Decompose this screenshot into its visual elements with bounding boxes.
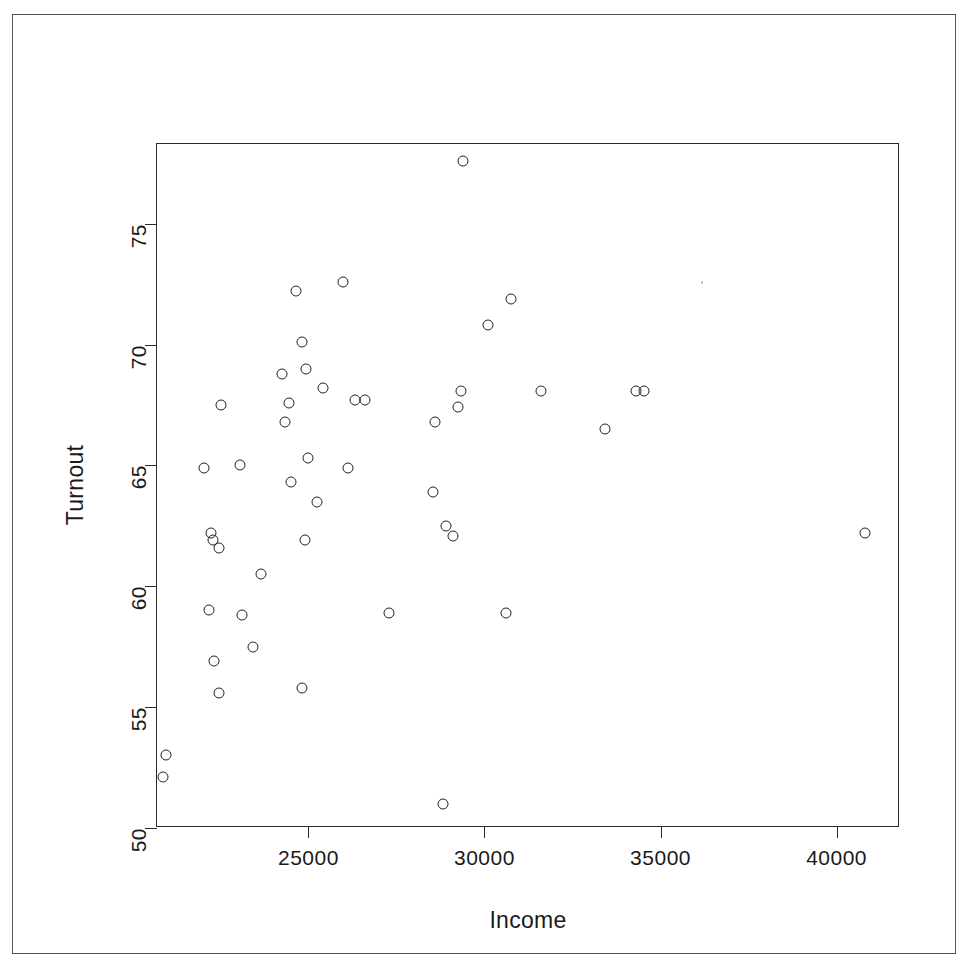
scatter-point — [318, 383, 329, 394]
x-axis-tick — [484, 826, 485, 838]
x-axis-tick-label: 25000 — [278, 846, 339, 870]
scatter-point — [343, 462, 354, 473]
scatter-point — [638, 385, 649, 396]
scatter-point — [157, 772, 168, 783]
scatter-point — [427, 487, 438, 498]
scatter-point — [279, 416, 290, 427]
scatter-plot-area: 505560657075 25000300003500040000 — [156, 143, 899, 827]
scatter-point — [437, 798, 448, 809]
scatter-point — [213, 542, 224, 553]
y-axis-tick-label: 75 — [127, 224, 151, 248]
scatter-point — [482, 320, 493, 331]
scatter-point — [160, 750, 171, 761]
y-axis-tick-label: 50 — [127, 828, 151, 852]
x-axis-tick — [308, 826, 309, 838]
y-axis-tick-label: 60 — [127, 586, 151, 610]
scatter-point — [455, 385, 466, 396]
scatter-point — [302, 453, 313, 464]
scatter-point — [297, 337, 308, 348]
x-axis-tick — [661, 826, 662, 838]
scatter-point — [360, 395, 371, 406]
scatter-point — [430, 416, 441, 427]
scatter-point — [235, 460, 246, 471]
scatter-point — [204, 605, 215, 616]
scatter-point — [256, 569, 267, 580]
scatter-point — [860, 528, 871, 539]
scatter-point — [447, 530, 458, 541]
scatter-point — [453, 402, 464, 413]
scatter-point — [209, 656, 220, 667]
scatter-point — [284, 397, 295, 408]
x-axis-tick-label: 35000 — [630, 846, 691, 870]
scatter-point — [301, 363, 312, 374]
scatter-point — [237, 610, 248, 621]
scatter-point — [312, 496, 323, 507]
scatter-point — [247, 641, 258, 652]
scatter-point — [198, 462, 209, 473]
scatter-point — [216, 400, 227, 411]
scatter-point — [500, 607, 511, 618]
x-axis-tick-label: 40000 — [806, 846, 867, 870]
y-axis-tick-label: 65 — [127, 465, 151, 489]
scatter-point — [383, 607, 394, 618]
scatter-point — [285, 477, 296, 488]
scatter-point — [277, 368, 288, 379]
scatter-point — [506, 293, 517, 304]
scatter-point — [337, 276, 348, 287]
y-axis-tick-label: 70 — [127, 345, 151, 369]
x-axis-tick — [837, 826, 838, 838]
y-axis-title: Turnout — [62, 445, 89, 526]
scatter-point — [535, 385, 546, 396]
scatter-point — [600, 424, 611, 435]
scatter-point — [299, 535, 310, 546]
scatter-point — [297, 682, 308, 693]
scatter-point — [290, 286, 301, 297]
figure-outer-frame: Turnout Income 505560657075 250003000035… — [12, 14, 956, 954]
scatter-point — [214, 687, 225, 698]
scatter-point — [458, 155, 469, 166]
y-axis-tick-label: 55 — [127, 707, 151, 731]
scan-speck — [701, 281, 703, 284]
scatter-point — [349, 395, 360, 406]
x-axis-title: Income — [489, 907, 566, 934]
x-axis-tick-label: 30000 — [454, 846, 515, 870]
